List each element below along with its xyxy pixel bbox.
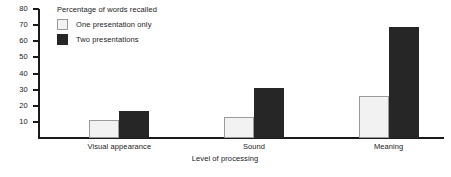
x-axis-category-label: Sound [243, 143, 265, 151]
bar [254, 88, 284, 138]
y-axis-tick-label: 50 [0, 53, 28, 61]
y-axis-tick-label: 20 [0, 102, 28, 110]
legend-item: One presentation only [57, 19, 157, 30]
y-axis-tick [33, 40, 39, 42]
y-axis-tick [33, 73, 39, 75]
y-axis-tick-label: 40 [0, 70, 28, 78]
bar [89, 120, 119, 138]
y-axis-tick [33, 56, 39, 58]
legend-item-label: Two presentations [76, 36, 139, 44]
legend-swatch-icon [57, 19, 68, 30]
y-axis-tick [33, 24, 39, 26]
y-axis-tick-label: 60 [0, 37, 28, 45]
legend-swatch-icon [57, 34, 68, 45]
y-axis-tick-label: 30 [0, 86, 28, 94]
bar [359, 96, 389, 138]
y-axis-tick-label: 10 [0, 118, 28, 126]
y-axis-tick [33, 105, 39, 107]
x-axis-title: Level of processing [192, 155, 259, 163]
bar [119, 111, 149, 138]
legend-item-label: One presentation only [76, 21, 151, 29]
y-axis-tick [33, 8, 39, 10]
bar-chart: 1020304050607080 Visual appearanceSoundM… [0, 0, 451, 177]
legend-title: Percentage of words recalled [57, 6, 157, 14]
legend: Percentage of words recalled One present… [57, 6, 157, 49]
y-axis-tick [33, 89, 39, 91]
bar [389, 27, 419, 138]
x-axis-category-label: Visual appearance [87, 143, 151, 151]
legend-item: Two presentations [57, 34, 157, 45]
bar [224, 117, 254, 138]
y-axis-tick-label: 80 [0, 5, 28, 13]
y-axis-tick-label: 70 [0, 21, 28, 29]
legend-entries: One presentation onlyTwo presentations [57, 19, 157, 45]
y-axis-tick [33, 121, 39, 123]
x-axis-category-label: Meaning [374, 143, 403, 151]
